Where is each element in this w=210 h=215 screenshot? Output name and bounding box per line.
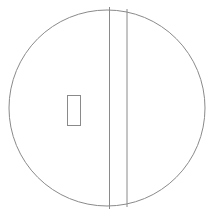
circle-diagram [0,0,210,215]
small-rectangle [68,96,81,126]
outer-circle [9,10,205,206]
